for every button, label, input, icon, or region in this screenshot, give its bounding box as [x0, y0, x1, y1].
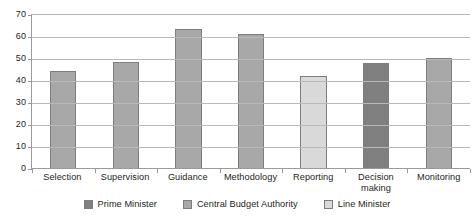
x-category-label: Selection	[31, 172, 94, 183]
plot-area	[31, 14, 470, 169]
bar	[238, 34, 264, 169]
x-axis-category-labels: SelectionSupervisionGuidanceMethodologyR…	[31, 172, 470, 198]
gridline	[32, 103, 470, 104]
y-tickmark	[28, 15, 32, 16]
x-category-label-line: Monitoring	[407, 172, 470, 183]
y-tick-label: 10	[16, 142, 26, 151]
y-tick-label: 30	[16, 98, 26, 107]
y-tickmark	[28, 147, 32, 148]
x-category-label-line: Reporting	[282, 172, 345, 183]
y-tickmark	[28, 37, 32, 38]
legend-label: Prime Minister	[98, 199, 157, 209]
x-category-label-line: Decision	[345, 172, 408, 183]
x-category-label: Methodology	[219, 172, 282, 183]
legend-swatch-icon	[183, 200, 192, 209]
bar	[50, 71, 76, 169]
x-category-label-line: Methodology	[219, 172, 282, 183]
x-category-label-line: making	[345, 183, 408, 194]
bar	[175, 29, 201, 169]
x-category-label: Supervision	[94, 172, 157, 183]
y-tickmark	[28, 103, 32, 104]
y-tick-label: 0	[21, 164, 26, 173]
x-category-label-line: Guidance	[156, 172, 219, 183]
bars-layer	[32, 15, 470, 169]
y-tick-label: 40	[16, 76, 26, 85]
gridline	[32, 59, 470, 60]
x-category-label-line: Supervision	[94, 172, 157, 183]
x-category-label: Reporting	[282, 172, 345, 183]
y-tick-label: 60	[16, 32, 26, 41]
x-tickmark	[470, 169, 471, 173]
y-axis-tick-labels: 706050403020100	[0, 0, 26, 180]
y-tickmark	[28, 125, 32, 126]
y-tick-label: 70	[16, 10, 26, 19]
x-category-label: Decisionmaking	[345, 172, 408, 194]
x-category-label-line: Selection	[31, 172, 94, 183]
x-axis-baseline	[32, 168, 470, 169]
y-tick-label: 20	[16, 120, 26, 129]
gridline	[32, 81, 470, 82]
legend-swatch-icon	[84, 200, 93, 209]
x-category-label: Guidance	[156, 172, 219, 183]
gridline	[32, 147, 470, 148]
legend-label: Central Budget Authority	[197, 199, 298, 209]
y-tickmark	[28, 81, 32, 82]
bar	[113, 62, 139, 169]
y-tick-label: 50	[16, 54, 26, 63]
bar-chart: 706050403020100 SelectionSupervisionGuid…	[0, 0, 474, 219]
gridline	[32, 125, 470, 126]
y-tickmark	[28, 59, 32, 60]
gridline	[32, 37, 470, 38]
bar	[363, 63, 389, 169]
bar	[300, 76, 326, 170]
plot-wrapper: 706050403020100	[0, 0, 474, 180]
legend-item[interactable]: Central Budget Authority	[183, 199, 298, 209]
legend-swatch-icon	[324, 200, 333, 209]
bar	[426, 58, 452, 169]
legend-label: Line Minister	[338, 199, 391, 209]
x-category-label: Monitoring	[407, 172, 470, 183]
legend-item[interactable]: Line Minister	[324, 199, 391, 209]
chart-legend: Prime MinisterCentral Budget AuthorityLi…	[0, 196, 474, 212]
legend-item[interactable]: Prime Minister	[84, 199, 157, 209]
